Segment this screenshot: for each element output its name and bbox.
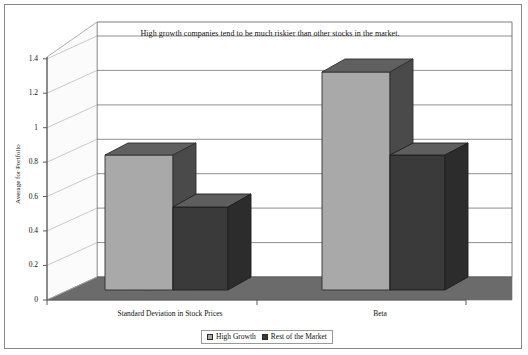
legend-item-rest-of-market[interactable]: Rest of the Market [262, 332, 327, 341]
legend-swatch-rest-of-market-icon [262, 334, 268, 340]
y-tick-label-0-8: 0.8 [12, 158, 38, 166]
legend-item-high-growth[interactable]: High Growth [207, 332, 256, 341]
category-label-standard-deviation: Standard Deviation in Stock Prices [80, 309, 260, 318]
y-tick-label-1-2: 1.2 [12, 89, 38, 97]
chart-plot-area [0, 0, 528, 355]
category-label-beta: Beta [330, 309, 430, 318]
bar-beta-rest-of-market [390, 143, 468, 290]
x-axis-ticks [47, 300, 466, 305]
y-tick-label-1: 1 [12, 124, 38, 132]
chart-title: High growth companies tend to be much ri… [120, 29, 420, 38]
y-tick-label-0-4: 0.4 [12, 227, 38, 235]
y-tick-label-1-4: 1.4 [12, 55, 38, 63]
y-tick-label-0-2: 0.2 [12, 261, 38, 269]
chart-screenshot: Average for Portfolio 0 0.2 0.4 0.6 0.8 … [0, 0, 528, 355]
legend-label-rest-of-market: Rest of the Market [271, 332, 327, 341]
legend-swatch-high-growth-icon [207, 334, 213, 340]
left-side-wall [47, 22, 97, 300]
bar-sd-rest-of-market [173, 194, 251, 290]
y-tick-label-0: 0 [12, 296, 38, 304]
legend-label-high-growth: High Growth [216, 332, 256, 341]
chart-legend: High Growth Rest of the Market [201, 330, 333, 344]
y-axis-title: Average for Portfolio [14, 129, 22, 219]
y-tick-label-0-6: 0.6 [12, 193, 38, 201]
